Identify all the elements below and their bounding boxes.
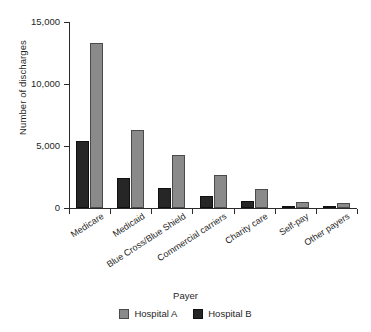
bar-group [282,22,309,208]
bar-hospital-b [200,196,213,208]
y-tick-label: 0 [55,202,60,213]
y-axis-title: Number of discharges [17,18,28,158]
y-tick-label: 5,000 [36,140,60,151]
chart-legend: Hospital AHospital B [0,308,371,319]
x-tick-label: Commercial carriers [223,211,228,219]
y-tick-label: 10,000 [31,78,60,89]
bar-hospital-b [241,201,254,208]
legend-swatch-icon [119,309,129,319]
x-tick-label: Medicaid [141,211,146,219]
x-axis-title: Payer [0,290,371,301]
y-tick: 10,000 [64,84,70,85]
x-tick [357,209,358,214]
bar-hospital-a [214,175,227,208]
bar-group [241,22,268,208]
legend-swatch-icon [193,309,203,319]
bar-hospital-b [117,178,130,208]
x-tick-label: Charity care [264,211,269,219]
x-tick-label: Other payers [346,211,351,219]
x-tick-label: Self-pay [305,211,310,219]
bar-hospital-a [172,155,185,208]
legend-label: Hospital B [208,308,251,319]
plot-area: 05,00010,00015,000 [69,22,357,209]
bar-hospital-a [337,203,350,208]
x-axis-tick-labels: MedicareMedicaidBlue Cross/Blue ShieldCo… [69,211,357,281]
legend-item[interactable]: Hospital B [193,308,251,319]
legend-label: Hospital A [134,308,177,319]
bar-hospital-a [255,189,268,208]
x-tick-label: Medicare [100,211,105,219]
bar-group [158,22,185,208]
x-axis-line [69,208,357,209]
bar-chart: Number of discharges 05,00010,00015,000 … [0,0,371,332]
bar-hospital-b [158,188,171,208]
bar-hospital-a [296,202,309,208]
legend-item[interactable]: Hospital A [119,308,177,319]
bar-group [117,22,144,208]
bar-group [200,22,227,208]
bar-group [323,22,350,208]
x-tick-label: Blue Cross/Blue Shield [182,211,187,219]
bar-hospital-b [282,206,295,208]
bar-hospital-b [76,141,89,208]
bar-hospital-a [131,130,144,208]
y-tick-label: 15,000 [31,16,60,27]
y-tick: 15,000 [64,22,70,23]
y-tick: 5,000 [64,146,70,147]
bar-group [76,22,103,208]
bar-hospital-b [323,206,336,208]
bar-hospital-a [90,43,103,208]
y-axis-line [69,22,70,209]
